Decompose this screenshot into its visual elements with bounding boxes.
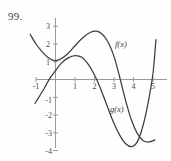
y-tick-label--2: -2: [45, 111, 52, 120]
y-tick-label--3: -3: [45, 129, 52, 138]
x-tick-label-2: 2: [93, 82, 97, 91]
x-tick-label-1: 1: [73, 82, 77, 91]
curve-g-of-x: [35, 40, 156, 147]
x-axis-tick-labels: -1 1 2 3 4 5: [33, 82, 155, 91]
y-axis-tick-labels: 3 2 1 -1 -2 -3 -4: [45, 22, 52, 156]
y-tick-label-2: 2: [46, 40, 50, 49]
figure-container: 99. -1 1 2 3 4 5: [0, 0, 171, 161]
curve-label-g: g(x): [110, 104, 124, 114]
y-tick-label--1: -1: [45, 96, 52, 105]
x-tick-label-3: 3: [112, 82, 116, 91]
y-tick-label-3: 3: [46, 22, 50, 31]
x-tick-label-4: 4: [132, 82, 136, 91]
axes-group: [36, 18, 167, 148]
x-tick-label--1: -1: [33, 82, 40, 91]
curve-label-f: f(x): [115, 39, 127, 49]
graph-plot: -1 1 2 3 4 5 3 2 1 -1 -2 -3 -4 f(x) g(x): [0, 0, 171, 161]
y-tick-label--4: -4: [45, 147, 52, 156]
